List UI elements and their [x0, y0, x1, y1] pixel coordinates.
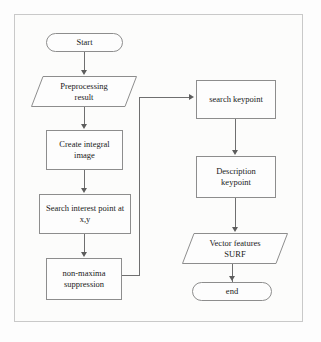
arrowhead-vector-features — [232, 227, 238, 232]
connector-search-interest-to-nonmaxima — [84, 234, 85, 253]
connector-to-search-keypoint — [139, 97, 190, 98]
arrowhead-end — [229, 276, 235, 281]
node-vector-features-surf[interactable]: Vector features SURF — [182, 233, 288, 264]
node-search-interest-point[interactable]: Search interest point at x,y — [39, 194, 131, 234]
arrowhead-description-keypoint — [232, 150, 238, 155]
node-search-keypoint-label: search keypoint — [209, 94, 263, 105]
node-search-interest-point-text: Search interest point at x,y — [46, 203, 124, 224]
node-create-integral-image-text: Create integral image — [59, 139, 109, 160]
node-start[interactable]: Start — [46, 33, 123, 52]
arrowhead-search-interest — [81, 188, 87, 193]
arrowhead-preprocessing — [81, 70, 87, 75]
node-preprocessing-result-text: Preprocessing result — [31, 81, 137, 102]
node-end[interactable]: end — [192, 282, 272, 301]
connector-preprocessing-to-integral — [84, 107, 85, 125]
node-vector-features-surf-text: Vector features SURF — [182, 238, 288, 259]
connector-searchkp-to-descriptionkp — [235, 119, 236, 151]
node-start-label: Start — [76, 37, 92, 48]
connector-start-to-preprocessing — [84, 52, 85, 71]
flowchart-page: Start Preprocessing result Create integr… — [0, 0, 321, 342]
node-non-maxima-suppression-text: non-maxima suppression — [63, 268, 106, 289]
node-create-integral-image[interactable]: Create integral image — [46, 130, 123, 170]
arrowhead-create-integral — [81, 124, 87, 129]
connector-descriptionkp-to-vector — [235, 198, 236, 228]
node-description-keypoint[interactable]: Description keypoint — [196, 156, 276, 198]
arrowhead-non-maxima — [81, 252, 87, 257]
node-end-label: end — [226, 286, 238, 297]
node-preprocessing-result[interactable]: Preprocessing result — [31, 76, 137, 107]
node-search-keypoint[interactable]: search keypoint — [196, 80, 276, 119]
connector-nonmaxima-exit — [122, 275, 140, 276]
arrowhead-search-keypoint — [189, 94, 194, 100]
connector-riser — [139, 97, 140, 276]
connector-integral-to-search-interest — [84, 170, 85, 189]
scan-artifact — [60, 306, 64, 318]
node-description-keypoint-text: Description keypoint — [216, 166, 256, 187]
node-non-maxima-suppression[interactable]: non-maxima suppression — [46, 258, 122, 300]
